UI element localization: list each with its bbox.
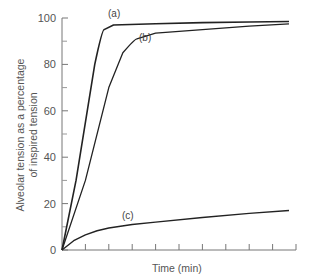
curve-c [62, 211, 289, 250]
y-axis-title-line1: Alveolar tension as a percentage [14, 58, 26, 211]
y-tick-label: 100 [38, 12, 56, 24]
curves [62, 21, 289, 250]
curve-labels: (a)(b)(c) [108, 8, 151, 221]
curve-label-c: (c) [122, 210, 134, 221]
y-tick-label: 20 [44, 198, 56, 210]
y-tick-label: 0 [50, 244, 56, 256]
y-axis-title-line2: of inspired tension [27, 92, 39, 177]
y-axis: 020406080100 [38, 12, 68, 256]
x-axis [62, 244, 296, 250]
x-axis-title: Time (min) [152, 262, 202, 274]
y-tick-label: 40 [44, 151, 56, 163]
curve-label-b: (b) [139, 32, 151, 43]
y-tick-label: 80 [44, 58, 56, 70]
line-chart: 020406080100 (a)(b)(c) Time (min) Alveol… [0, 0, 311, 279]
curve-label-a: (a) [108, 8, 120, 19]
y-tick-label: 60 [44, 105, 56, 117]
